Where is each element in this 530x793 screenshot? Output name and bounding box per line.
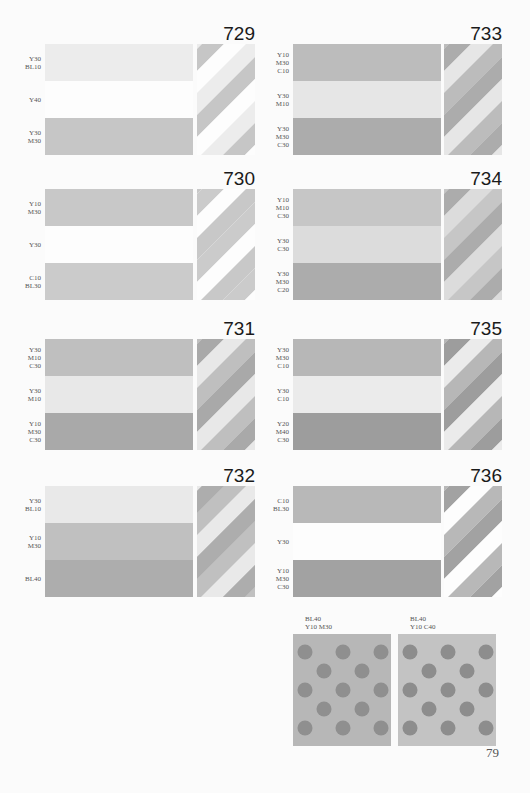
color-formula-label: BL40	[1, 560, 41, 597]
color-band	[293, 376, 441, 413]
formula-line: Y30	[277, 538, 289, 546]
color-band	[45, 486, 193, 523]
formula-line: M40	[276, 428, 289, 436]
formula-line: M30	[276, 354, 289, 362]
formula-line: Y30	[277, 92, 289, 100]
color-formula-label: Y10M30	[1, 523, 41, 560]
color-formula-label: Y30BL10	[1, 486, 41, 523]
formula-line: M30	[28, 208, 41, 216]
formula-line: Y30	[277, 125, 289, 133]
sample-number: 731	[187, 319, 255, 338]
formula-line: M10	[28, 354, 41, 362]
color-band	[293, 339, 441, 376]
color-formula-label: Y10M30C30	[1, 413, 41, 450]
formula-line: Y10	[277, 567, 289, 575]
color-band	[45, 376, 193, 413]
color-formula-label: Y30C10	[249, 376, 289, 413]
formula-line: Y10	[277, 51, 289, 59]
formula-line: Y10	[277, 196, 289, 204]
color-band	[293, 486, 441, 523]
formula-line: M30	[276, 59, 289, 67]
color-band	[45, 226, 193, 263]
color-band	[293, 189, 441, 226]
formula-line: C10	[277, 67, 289, 75]
color-band	[45, 44, 193, 81]
formula-line: M10	[276, 204, 289, 212]
formula-line: BL40	[25, 575, 41, 583]
formula-line: C10	[29, 274, 41, 282]
dot-pattern-label: BL40Y10 M30	[305, 615, 332, 631]
color-formula-label: Y30M30C20	[249, 263, 289, 300]
sample-number: 736	[434, 466, 502, 485]
diagonal-stripe-swatch	[444, 44, 502, 155]
formula-line: C30	[277, 141, 289, 149]
formula-line: M10	[28, 395, 41, 403]
color-formula-label: Y30	[249, 523, 289, 560]
color-formula-label: Y30BL10	[1, 44, 41, 81]
formula-line: BL30	[273, 505, 289, 513]
formula-line: M30	[276, 133, 289, 141]
formula-line: Y10 M30	[305, 623, 332, 631]
sample-number: 730	[187, 169, 255, 188]
color-formula-label: Y30	[1, 226, 41, 263]
formula-line: C30	[277, 212, 289, 220]
sample-number: 735	[434, 319, 502, 338]
color-band	[45, 263, 193, 300]
formula-line: Y30	[277, 387, 289, 395]
color-band	[293, 118, 441, 155]
color-formula-label: Y30C30	[249, 226, 289, 263]
formula-line: Y30	[29, 55, 41, 63]
color-formula-label: C10BL30	[249, 486, 289, 523]
color-formula-label: Y30M30	[1, 118, 41, 155]
sample-number: 734	[434, 169, 502, 188]
formula-line: C30	[29, 436, 41, 444]
color-band	[45, 339, 193, 376]
color-band	[293, 226, 441, 263]
color-band	[45, 523, 193, 560]
diagonal-stripe-swatch	[197, 339, 255, 450]
formula-line: C30	[277, 583, 289, 591]
formula-line: C30	[29, 362, 41, 370]
page-number: 79	[486, 745, 499, 761]
color-formula-label: Y30M10	[249, 81, 289, 118]
formula-line: M30	[28, 542, 41, 550]
color-band	[45, 189, 193, 226]
color-band	[293, 263, 441, 300]
color-band	[293, 44, 441, 81]
formula-line: Y30	[29, 387, 41, 395]
formula-line: BL30	[25, 282, 41, 290]
formula-line: BL40	[305, 615, 332, 623]
formula-line: C20	[277, 286, 289, 294]
formula-line: Y10	[29, 420, 41, 428]
color-band	[293, 523, 441, 560]
color-band	[293, 81, 441, 118]
polka-dot-pattern	[293, 634, 391, 746]
diagonal-stripe-swatch	[197, 189, 255, 300]
sample-number: 732	[187, 466, 255, 485]
diagonal-stripe-swatch	[197, 486, 255, 597]
sample-number: 733	[434, 24, 502, 43]
formula-line: M30	[276, 278, 289, 286]
formula-line: C10	[277, 395, 289, 403]
sample-number: 729	[187, 24, 255, 43]
color-band	[45, 118, 193, 155]
formula-line: Y30	[277, 237, 289, 245]
formula-line: Y30	[29, 346, 41, 354]
color-formula-label: Y20M40C30	[249, 413, 289, 450]
color-formula-label: C10BL30	[1, 263, 41, 300]
formula-line: Y10	[29, 200, 41, 208]
formula-line: C30	[277, 436, 289, 444]
diagonal-stripe-swatch	[444, 189, 502, 300]
formula-line: M10	[276, 100, 289, 108]
color-formula-label: Y30M10C30	[1, 339, 41, 376]
diagonal-stripe-swatch	[444, 486, 502, 597]
polka-dot-pattern	[398, 634, 496, 746]
formula-line: BL40	[410, 615, 435, 623]
formula-line: Y10	[29, 534, 41, 542]
formula-line: M30	[28, 428, 41, 436]
formula-line: C10	[277, 497, 289, 505]
formula-line: BL10	[25, 505, 41, 513]
color-formula-label: Y40	[1, 81, 41, 118]
diagonal-stripe-swatch	[444, 339, 502, 450]
color-formula-label: Y30M30C10	[249, 339, 289, 376]
